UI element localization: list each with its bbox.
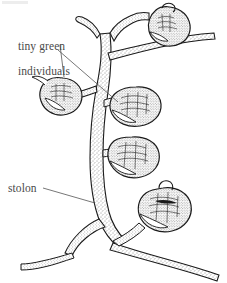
stolon-runner-lower-right: [110, 243, 219, 281]
stolon-runner-lower-left: [21, 253, 74, 270]
label-tiny-green-line2: individuals: [18, 65, 70, 77]
zooid-middle-upper: [110, 87, 161, 127]
stolon-upper-right-prong: [110, 13, 149, 41]
zooid-middle-upper-body: [110, 87, 161, 127]
zooid-middle-lower-body: [108, 137, 159, 178]
figure-container: tiny green individuals stolon: [0, 0, 227, 283]
zooid-bottom-right: [138, 181, 191, 232]
leader-line-stolon: [43, 188, 95, 203]
stolon-upper-left-prong: [76, 16, 100, 38]
label-tiny-green-individuals: tiny green individuals: [6, 27, 70, 90]
zooid-top-right: [148, 3, 190, 46]
zooid-middle-lower: [108, 137, 159, 178]
zooid-top-right-body: [148, 7, 190, 46]
label-tiny-green-line1: tiny green: [18, 40, 65, 52]
stolon-lower-left-prong: [65, 219, 105, 256]
label-stolon: stolon: [8, 182, 37, 195]
